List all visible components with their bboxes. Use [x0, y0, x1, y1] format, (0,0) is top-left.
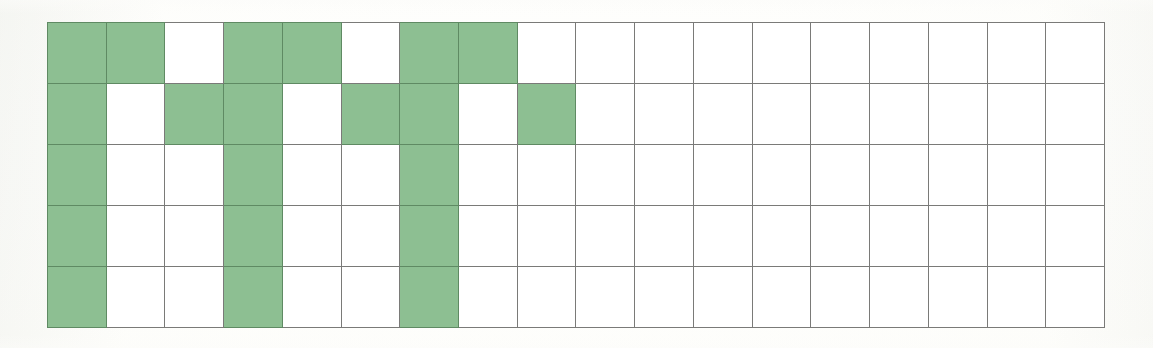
grid-cell-empty[interactable] — [341, 145, 400, 206]
grid-cell-filled[interactable] — [459, 23, 518, 84]
grid-cell-empty[interactable] — [459, 267, 518, 328]
grid-cell-empty[interactable] — [987, 267, 1046, 328]
grid-cell-empty[interactable] — [165, 145, 224, 206]
grid-cell-empty[interactable] — [752, 145, 811, 206]
grid-cell-filled[interactable] — [224, 267, 283, 328]
grid-cell-empty[interactable] — [459, 84, 518, 145]
grid-cell-filled[interactable] — [400, 267, 459, 328]
grid-row — [48, 267, 1105, 328]
grid-cell-empty[interactable] — [106, 267, 165, 328]
worksheet-grid — [47, 22, 1105, 328]
grid-cell-empty[interactable] — [811, 267, 870, 328]
grid-cell-empty[interactable] — [106, 84, 165, 145]
grid-cell-empty[interactable] — [1046, 84, 1105, 145]
grid-cell-filled[interactable] — [48, 84, 107, 145]
grid-cell-empty[interactable] — [870, 23, 929, 84]
grid-cell-empty[interactable] — [106, 206, 165, 267]
grid-row — [48, 23, 1105, 84]
grid-cell-filled[interactable] — [400, 23, 459, 84]
grid-cell-empty[interactable] — [693, 145, 752, 206]
grid-cell-filled[interactable] — [48, 206, 107, 267]
grid-cell-empty[interactable] — [282, 84, 341, 145]
grid-cell-empty[interactable] — [752, 84, 811, 145]
grid-cell-filled[interactable] — [400, 145, 459, 206]
grid-cell-empty[interactable] — [1046, 23, 1105, 84]
grid-cell-empty[interactable] — [635, 206, 694, 267]
grid-cell-empty[interactable] — [517, 145, 576, 206]
grid-cell-empty[interactable] — [752, 267, 811, 328]
grid-cell-empty[interactable] — [870, 84, 929, 145]
grid-cell-filled[interactable] — [48, 145, 107, 206]
grid-cell-empty[interactable] — [517, 267, 576, 328]
grid-cell-empty[interactable] — [576, 84, 635, 145]
grid-cell-empty[interactable] — [165, 23, 224, 84]
grid-cell-empty[interactable] — [870, 267, 929, 328]
grid-cell-empty[interactable] — [341, 23, 400, 84]
grid-cell-empty[interactable] — [635, 84, 694, 145]
grid-cell-filled[interactable] — [224, 84, 283, 145]
grid-cell-filled[interactable] — [224, 23, 283, 84]
grid-cell-empty[interactable] — [987, 145, 1046, 206]
grid-cell-filled[interactable] — [517, 84, 576, 145]
grid-cell-empty[interactable] — [517, 23, 576, 84]
grid-cell-empty[interactable] — [928, 23, 987, 84]
grid-cell-empty[interactable] — [811, 84, 870, 145]
grid-row — [48, 206, 1105, 267]
grid-cell-empty[interactable] — [165, 267, 224, 328]
grid-cell-empty[interactable] — [635, 267, 694, 328]
grid-cell-filled[interactable] — [165, 84, 224, 145]
grid-cell-filled[interactable] — [48, 23, 107, 84]
grid-cell-empty[interactable] — [576, 206, 635, 267]
grid-cell-empty[interactable] — [987, 84, 1046, 145]
grid-cell-empty[interactable] — [752, 206, 811, 267]
grid-cell-filled[interactable] — [224, 206, 283, 267]
grid-cell-empty[interactable] — [928, 145, 987, 206]
grid-cell-empty[interactable] — [928, 84, 987, 145]
grid-cell-empty[interactable] — [693, 23, 752, 84]
grid-cell-empty[interactable] — [870, 145, 929, 206]
grid-cell-filled[interactable] — [341, 84, 400, 145]
grid-cell-empty[interactable] — [693, 206, 752, 267]
grid-cell-empty[interactable] — [870, 206, 929, 267]
grid-cell-empty[interactable] — [1046, 206, 1105, 267]
grid-cell-empty[interactable] — [459, 206, 518, 267]
grid-cell-empty[interactable] — [165, 206, 224, 267]
grid-cell-empty[interactable] — [635, 23, 694, 84]
grid-cell-empty[interactable] — [693, 84, 752, 145]
grid-cell-empty[interactable] — [282, 267, 341, 328]
grid-cell-empty[interactable] — [987, 23, 1046, 84]
grid-cell-empty[interactable] — [106, 145, 165, 206]
grid-cell-empty[interactable] — [693, 267, 752, 328]
grid-cell-empty[interactable] — [282, 145, 341, 206]
grid-cell-empty[interactable] — [459, 145, 518, 206]
grid-cell-empty[interactable] — [1046, 267, 1105, 328]
grid-cell-empty[interactable] — [576, 23, 635, 84]
grid-cell-filled[interactable] — [400, 206, 459, 267]
grid-cell-empty[interactable] — [341, 206, 400, 267]
grid-cell-filled[interactable] — [48, 267, 107, 328]
grid-container — [47, 22, 1104, 327]
grid-cell-empty[interactable] — [752, 23, 811, 84]
grid-cell-filled[interactable] — [400, 84, 459, 145]
grid-cell-empty[interactable] — [517, 206, 576, 267]
grid-cell-empty[interactable] — [282, 206, 341, 267]
grid-cell-empty[interactable] — [576, 267, 635, 328]
grid-body — [48, 23, 1105, 328]
grid-cell-empty[interactable] — [1046, 145, 1105, 206]
grid-cell-filled[interactable] — [282, 23, 341, 84]
grid-row — [48, 145, 1105, 206]
grid-cell-filled[interactable] — [106, 23, 165, 84]
grid-cell-empty[interactable] — [811, 145, 870, 206]
grid-cell-empty[interactable] — [341, 267, 400, 328]
grid-row — [48, 84, 1105, 145]
grid-cell-empty[interactable] — [576, 145, 635, 206]
grid-cell-empty[interactable] — [928, 267, 987, 328]
grid-cell-filled[interactable] — [224, 145, 283, 206]
grid-cell-empty[interactable] — [987, 206, 1046, 267]
grid-cell-empty[interactable] — [811, 23, 870, 84]
grid-cell-empty[interactable] — [811, 206, 870, 267]
grid-cell-empty[interactable] — [928, 206, 987, 267]
grid-cell-empty[interactable] — [635, 145, 694, 206]
